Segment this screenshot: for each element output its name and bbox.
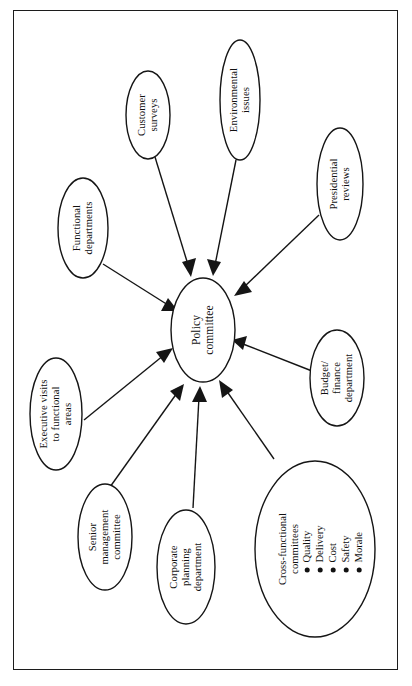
edge-executive-visits bbox=[84, 348, 173, 420]
edge-senior-management bbox=[110, 384, 184, 487]
node-shape-corporate-planning[interactable] bbox=[157, 510, 215, 624]
edge-customer-surveys bbox=[155, 157, 196, 277]
edge-budget-finance bbox=[232, 336, 312, 371]
node-shape-functional-departments[interactable] bbox=[58, 178, 108, 278]
node-shape-cross-functional[interactable] bbox=[255, 461, 375, 637]
node-shape-customer-surveys[interactable] bbox=[126, 71, 170, 159]
diagram-page: Policy committee Customer surveys Enviro… bbox=[0, 0, 412, 686]
node-shape-presidential-reviews[interactable] bbox=[317, 128, 363, 240]
node-shape-senior-management[interactable] bbox=[78, 484, 132, 590]
node-shape-budget-finance[interactable] bbox=[310, 330, 364, 426]
edge-corporate-planning bbox=[192, 386, 207, 508]
diagram-canvas bbox=[0, 0, 412, 686]
edge-functional-departments bbox=[103, 264, 178, 311]
edge-presidential-reviews bbox=[234, 215, 319, 296]
edge-cross-functional bbox=[219, 380, 274, 459]
edge-environmental-issues bbox=[207, 160, 236, 276]
node-shape-executive-visits[interactable] bbox=[30, 358, 82, 470]
node-shape-policy-committee[interactable] bbox=[171, 278, 235, 382]
node-shape-environmental-issues[interactable] bbox=[220, 40, 260, 160]
